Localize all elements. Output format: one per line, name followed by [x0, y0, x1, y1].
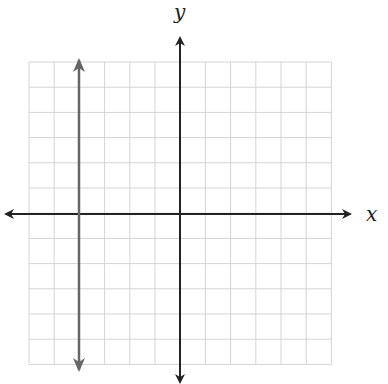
- y-axis-label: y: [174, 0, 185, 24]
- coordinate-plane: [0, 0, 388, 384]
- x-axis-label: x: [366, 202, 377, 226]
